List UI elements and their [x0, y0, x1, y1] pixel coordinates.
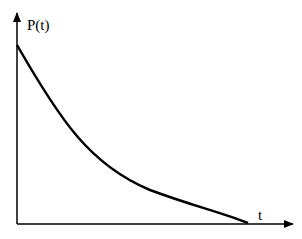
- x-axis-label: t: [258, 207, 263, 223]
- decay-diagram: P(t) t: [0, 0, 302, 239]
- y-axis-label: P(t): [27, 17, 50, 34]
- decay-curve: [17, 45, 248, 223]
